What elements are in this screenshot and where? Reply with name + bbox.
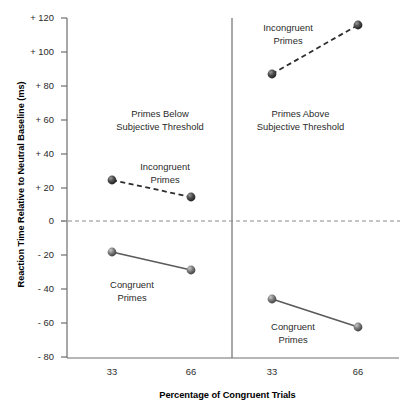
x-tick-label-right-66: 66 (338, 366, 378, 377)
data-point (187, 266, 196, 275)
panel-note-line1: Primes Above (243, 108, 358, 121)
panel-note-line2: Subjective Threshold (105, 121, 215, 134)
series-label-line2: Primes (97, 292, 167, 305)
left-panel-congruent-series (108, 248, 196, 275)
y-axis-title: Reaction Time Relative to Neutral Baseli… (14, 7, 28, 362)
data-point (268, 295, 277, 304)
panel-note-line2: Subjective Threshold (243, 121, 358, 134)
data-point (354, 21, 363, 30)
panel-note-line1: Primes Below (105, 108, 215, 121)
series-label-line1: Incongruent (130, 161, 200, 174)
x-tick-label-left-33: 33 (92, 366, 132, 377)
series-label-line1: Congruent (258, 321, 328, 334)
x-tick-label-left-66: 66 (171, 366, 211, 377)
panel-note-above-threshold: Primes Above Subjective Threshold (243, 108, 358, 133)
series-label-right-incongruent: Incongruent Primes (253, 22, 323, 47)
series-label-left-incongruent: Incongruent Primes (130, 161, 200, 186)
series-label-left-congruent: Congruent Primes (97, 279, 167, 304)
series-label-line1: Incongruent (253, 22, 323, 35)
panel-note-below-threshold: Primes Below Subjective Threshold (105, 108, 215, 133)
chart-plot-area (0, 0, 400, 411)
series-label-line2: Primes (130, 174, 200, 187)
left-congruent-line (112, 252, 191, 270)
data-point (108, 176, 117, 185)
series-label-line2: Primes (253, 35, 323, 48)
y-axis-ticks (61, 18, 67, 357)
series-label-right-congruent: Congruent Primes (258, 321, 328, 346)
chart-figure: + 120 + 100 + 80 + 60 + 40 + 20 0 - 20 -… (0, 0, 400, 411)
data-point (187, 193, 196, 202)
series-label-line2: Primes (258, 334, 328, 347)
x-axis-title: Percentage of Congruent Trials (55, 390, 400, 400)
data-point (108, 248, 117, 257)
series-label-line1: Congruent (97, 279, 167, 292)
x-tick-label-right-33: 33 (252, 366, 292, 377)
data-point (268, 70, 277, 79)
data-point (354, 323, 363, 332)
